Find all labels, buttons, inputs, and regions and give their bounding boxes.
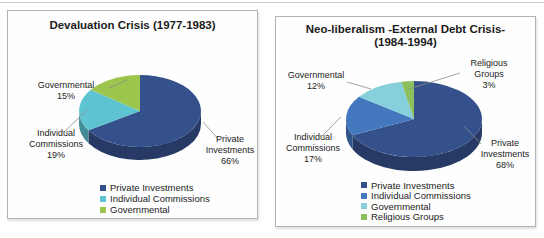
legend-label: Governmental bbox=[110, 204, 170, 215]
slice-label-pct: 17% bbox=[283, 154, 343, 165]
slice-label-pct: 66% bbox=[204, 156, 256, 167]
slice-label-private-investments: Private Investments 68% bbox=[478, 138, 532, 171]
slice-label-religious-groups: Religious Groups 3% bbox=[461, 58, 517, 91]
legend-label: Private Investments bbox=[110, 182, 193, 193]
legend-item-religious-groups: Religious Groups bbox=[361, 212, 471, 223]
slice-label-name: Individual Commissions bbox=[26, 128, 86, 150]
slice-label-pct: 68% bbox=[478, 160, 532, 171]
slice-label-individual-commissions: Individual Commissions 17% bbox=[283, 132, 343, 165]
legend-swatch bbox=[361, 182, 367, 188]
slice-label-private-investments: Private Investments 66% bbox=[204, 134, 256, 167]
slice-label-name: Governmental bbox=[20, 80, 112, 91]
legend-label: Individual Commissions bbox=[110, 193, 210, 204]
figure-two-pie-charts: Devaluation Crisis (1977-1983) Governmen… bbox=[0, 0, 544, 238]
legend-item-private-investments: Private Investments bbox=[100, 182, 210, 193]
plot-area: Governmental 12% Religious Groups 3% Ind… bbox=[276, 17, 535, 226]
legend-swatch bbox=[100, 185, 106, 191]
legend-swatch bbox=[361, 214, 367, 220]
legend-swatch bbox=[361, 193, 367, 199]
legend-label: Individual Commissions bbox=[371, 190, 471, 201]
legend-label: Private Investments bbox=[371, 180, 454, 191]
legend-item-individual-commissions: Individual Commissions bbox=[100, 193, 210, 204]
top-divider-line bbox=[0, 2, 544, 3]
slice-label-name: Religious Groups bbox=[461, 58, 517, 80]
slice-label-pct: 12% bbox=[280, 81, 352, 92]
slice-label-individual-commissions: Individual Commissions 19% bbox=[26, 128, 86, 161]
slice-label-name: Private Investments bbox=[204, 134, 256, 156]
legend: Private Investments Individual Commissio… bbox=[361, 180, 471, 222]
legend-item-governmental: Governmental bbox=[361, 201, 471, 212]
legend-item-governmental: Governmental bbox=[100, 204, 210, 215]
chart-panel-neoliberalism-debt-crisis: Neo-liberalism -External Debt Crisis- (1… bbox=[275, 16, 536, 227]
legend-label: Religious Groups bbox=[371, 211, 444, 222]
slice-label-name: Private Investments bbox=[478, 138, 532, 160]
plot-area: Governmental 15% Individual Commissions … bbox=[8, 11, 257, 218]
slice-label-governmental: Governmental 15% bbox=[20, 80, 112, 102]
legend-item-private-investments: Private Investments bbox=[361, 180, 471, 191]
legend-swatch bbox=[361, 203, 367, 209]
pie-slices bbox=[346, 81, 482, 171]
slice-label-pct: 19% bbox=[26, 150, 86, 161]
legend-swatch bbox=[100, 207, 106, 213]
legend-swatch bbox=[100, 196, 106, 202]
legend: Private Investments Individual Commissio… bbox=[100, 182, 210, 215]
legend-item-individual-commissions: Individual Commissions bbox=[361, 191, 471, 202]
slice-label-pct: 15% bbox=[20, 91, 112, 102]
chart-panel-devaluation-crisis: Devaluation Crisis (1977-1983) Governmen… bbox=[7, 10, 258, 219]
slice-label-pct: 3% bbox=[461, 80, 517, 91]
slice-label-name: Individual Commissions bbox=[283, 132, 343, 154]
legend-label: Governmental bbox=[371, 201, 431, 212]
slice-label-governmental: Governmental 12% bbox=[280, 70, 352, 92]
slice-label-name: Governmental bbox=[280, 70, 352, 81]
